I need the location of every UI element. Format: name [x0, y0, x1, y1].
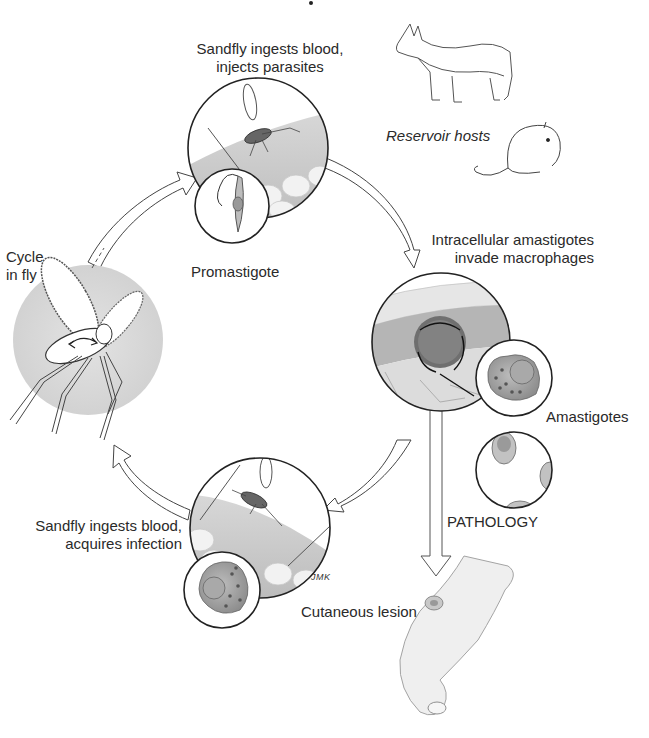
- cutaneous-lesion-label: Cutaneous lesion: [301, 603, 417, 621]
- pathology-label: PATHOLOGY: [447, 513, 538, 531]
- arrow-invade-to-acquire: [323, 440, 411, 512]
- promastigote-label: Promastigote: [191, 263, 279, 281]
- arrow-acquire-to-fly: [113, 445, 190, 520]
- amastigotes-label: Amastigotes: [546, 408, 629, 426]
- hand-illustration: [400, 556, 513, 715]
- fly-cycle-label: Cycle in fly: [6, 248, 44, 284]
- dog-illustration: [396, 24, 512, 102]
- promastigote-inset: [195, 169, 269, 243]
- reservoir-hosts-label: Reservoir hosts: [386, 127, 490, 145]
- invade-stage-label: Intracellular amastigotes invade macroph…: [420, 231, 594, 267]
- acquire-stage-label: Sandfly ingests blood, acquires infectio…: [14, 517, 182, 553]
- arrow-fly-to-inject: [88, 172, 197, 268]
- pathology-arrow: [421, 410, 451, 576]
- amastigote-inset: [476, 432, 560, 519]
- artist-signature: JMK: [311, 572, 331, 582]
- title-fragment-mark: [309, 1, 313, 5]
- inject-stage-label: Sandfly ingests blood, injects parasites: [180, 40, 360, 76]
- leishmania-life-cycle-diagram: [0, 0, 649, 738]
- infected-macrophage-inset: [184, 552, 260, 628]
- macrophage-inset: [476, 340, 552, 416]
- arrow-inject-to-invade: [325, 158, 420, 268]
